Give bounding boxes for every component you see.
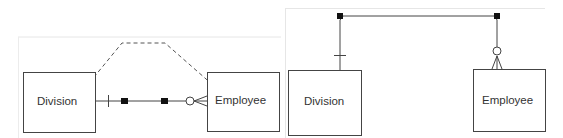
zero-cardinality-circle [493,47,501,55]
entity-label: Division [37,95,77,107]
line-handle-square[interactable] [121,98,128,104]
entity-label: Division [304,95,344,107]
entity-label: Employee [215,94,266,106]
zero-cardinality-circle [186,97,194,105]
crows-foot-icon [194,101,207,106]
entity-label: Employee [482,94,533,106]
line-handle-square[interactable] [337,13,343,19]
relationship-line[interactable] [340,16,497,70]
right-relationship[interactable] [334,13,502,70]
line-handle-square[interactable] [494,13,500,19]
crows-foot-icon [194,96,207,101]
line-handle-square[interactable] [161,98,168,104]
crows-foot-icon [497,56,502,69]
crows-foot-icon [492,56,497,69]
